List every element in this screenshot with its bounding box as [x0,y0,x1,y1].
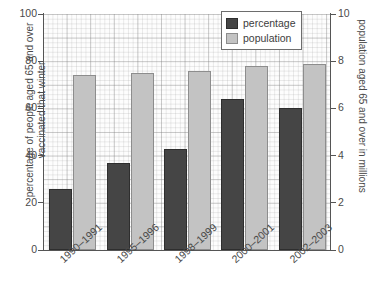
legend-item-population: population [226,31,296,45]
left-tick-0 [38,250,43,251]
bar-percentage [221,99,244,250]
right-tick-10 [331,14,336,15]
legend-label-population: population [243,33,291,44]
legend-swatch-percentage [226,18,238,29]
left-axis-title: percentage of people aged 65 and over va… [24,10,48,210]
right-tick-label-0: 0 [338,244,370,255]
right-y-axis-line [330,13,331,251]
legend-item-percentage: percentage [226,16,296,30]
bar-percentage [279,108,302,250]
left-tick-label-0: 0 [0,244,37,255]
bar-percentage [164,149,187,250]
right-axis-title: population aged 65 and over in millions [356,6,368,206]
right-tick-4 [331,155,336,156]
bar-percentage [49,189,72,250]
right-tick-8 [331,61,336,62]
legend: percentage population [221,11,302,50]
bar-percentage [107,163,130,250]
legend-swatch-population [226,33,238,44]
legend-label-percentage: percentage [243,18,296,29]
right-tick-6 [331,108,336,109]
right-tick-2 [331,202,336,203]
right-tick-0 [331,250,336,251]
bar-chart: 100 80 60 40 20 0 10 8 6 4 2 0 1990–1991… [0,0,370,304]
bar-population [303,64,326,250]
